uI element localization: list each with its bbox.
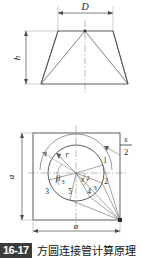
point-label-4: 4 xyxy=(87,187,91,196)
label-h: h xyxy=(12,55,22,60)
figure-caption: 16-17 方圆连接管计算原理 xyxy=(0,240,143,260)
label-a-vertical: a xyxy=(6,174,16,179)
arrowhead-a-vert-bottom xyxy=(20,215,24,220)
triangulation-line-left xyxy=(41,31,85,84)
arrowhead-a-vert-top xyxy=(20,133,24,138)
technical-drawing: D h xyxy=(0,0,143,240)
triangulation-line-right xyxy=(85,31,128,84)
figure-number-badge: 16-17 xyxy=(0,243,32,258)
figure-container: D h xyxy=(0,0,143,260)
radial-line-1 xyxy=(76,165,103,173)
point-label-1: 1 xyxy=(103,156,107,165)
label-s-numerator: s xyxy=(124,134,128,144)
label-beta: β 3 xyxy=(55,173,65,185)
inner-label-3a: 3 xyxy=(80,176,83,183)
point-label-2: 2 xyxy=(104,177,108,186)
corner-line-3 xyxy=(90,197,120,220)
inner-label-2: 2 xyxy=(86,174,89,181)
arrowhead-h-top xyxy=(24,31,28,36)
arrowhead-D-left xyxy=(58,11,63,15)
arrowhead-D-right xyxy=(108,11,113,15)
plan-view: a a s 2 r β 3 1 2 3 4 5 3 2 3 xyxy=(6,125,132,233)
figure-caption-text: 方圆连接管计算原理 xyxy=(37,242,136,258)
point-label-5: 5 xyxy=(68,187,72,196)
label-beta-symbol: β xyxy=(55,173,61,183)
corner-line-2 xyxy=(102,183,120,220)
elevation-view: D h xyxy=(12,1,128,95)
triangulation-line-right-edge xyxy=(113,31,128,84)
arrowhead-h-bottom xyxy=(24,79,28,84)
label-2-denominator: 2 xyxy=(124,147,128,157)
point-label-3: 3 xyxy=(45,187,49,196)
label-s-over-2: s 2 xyxy=(120,134,132,157)
label-r: r xyxy=(65,150,69,159)
triangulation-line-left-edge xyxy=(41,31,58,84)
inner-label-3b: 3 xyxy=(93,184,96,191)
arrowhead-r xyxy=(56,153,61,159)
arrowhead-a-horz-left xyxy=(33,229,38,233)
arrowhead-a-horz-right xyxy=(115,229,120,233)
corner-node xyxy=(118,218,122,222)
label-a-horizontal: a xyxy=(74,221,79,231)
label-beta-subscript: 3 xyxy=(62,179,65,185)
label-D: D xyxy=(80,1,89,12)
corner-line-4 xyxy=(70,200,120,220)
